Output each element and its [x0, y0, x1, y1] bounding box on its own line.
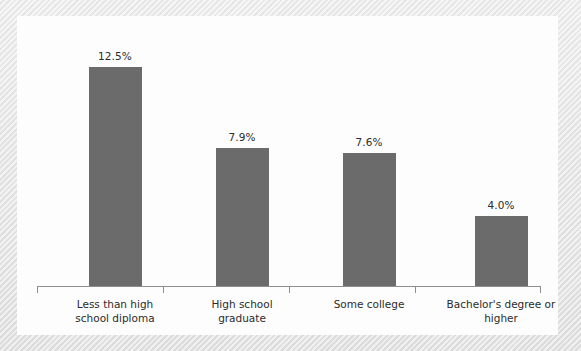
- bar: [216, 148, 269, 286]
- axis-tick: [540, 286, 541, 293]
- axis-tick: [163, 286, 164, 293]
- axis-tick: [37, 286, 38, 293]
- axis-tick: [415, 286, 416, 293]
- bar-value-label: 7.9%: [197, 131, 287, 143]
- chart-panel: 12.5%7.9%7.6%4.0% Less than highschool d…: [18, 17, 557, 334]
- bar: [89, 67, 142, 286]
- category-label-line: Some college: [294, 298, 444, 312]
- bar: [343, 153, 396, 286]
- category-label: Bachelor's degree orhigher: [426, 298, 576, 325]
- chart-screenshot: 12.5%7.9%7.6%4.0% Less than highschool d…: [0, 0, 581, 351]
- axis-tick: [289, 286, 290, 293]
- bar-value-label: 4.0%: [456, 199, 546, 211]
- category-label-line: Bachelor's degree or: [426, 298, 576, 312]
- plot-area: 12.5%7.9%7.6%4.0% Less than highschool d…: [18, 17, 557, 334]
- bar: [475, 216, 528, 286]
- category-label-line: higher: [426, 312, 576, 326]
- category-label: Some college: [294, 298, 444, 312]
- bar-value-label: 7.6%: [324, 136, 414, 148]
- bar-value-label: 12.5%: [70, 50, 160, 62]
- category-label-line: graduate: [167, 312, 317, 326]
